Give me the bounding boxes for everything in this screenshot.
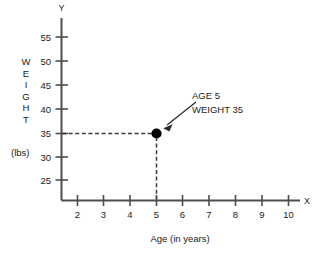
x-tick-label-2: 2: [75, 209, 80, 220]
y-tick-label-50: 50: [40, 56, 51, 67]
x-axis-letter: X: [304, 196, 310, 206]
y-tick-label-40: 40: [40, 104, 51, 115]
x-tick-label-5: 5: [154, 209, 159, 220]
x-tick-label-3: 3: [101, 209, 106, 220]
x-tick-label-6: 6: [180, 209, 185, 220]
chart-plot-area: 55 50 45 40 35 30 25 2 3 4 5 6 7 8 9 10 …: [0, 0, 323, 255]
x-tick-label-7: 7: [206, 209, 211, 220]
annotation-line-2: WEIGHT 35: [192, 104, 243, 115]
weight-vs-age-chart: 55 50 45 40 35 30 25 2 3 4 5 6 7 8 9 10 …: [0, 0, 323, 255]
y-axis-title-letter-g: G: [18, 91, 34, 103]
y-tick-label-45: 45: [40, 80, 51, 91]
x-tick-label-9: 9: [259, 209, 264, 220]
y-axis-title-letter-e: E: [18, 68, 34, 80]
y-axis-title-letter-i: I: [18, 79, 34, 91]
data-point-age5-weight35[interactable]: [151, 128, 161, 138]
x-tick-label-10: 10: [283, 209, 294, 220]
y-axis-title-letter-w: W: [18, 56, 34, 68]
y-axis-title-letter-h: H: [18, 102, 34, 114]
x-tick-label-4: 4: [127, 209, 132, 220]
y-tick-label-25: 25: [40, 175, 51, 186]
y-tick-label-55: 55: [40, 32, 51, 43]
y-axis-unit: (lbs): [11, 147, 29, 158]
y-axis-letter: Y: [58, 3, 64, 13]
x-axis-title: Age (in years): [150, 233, 209, 244]
x-tick-label-8: 8: [233, 209, 238, 220]
y-axis-title-letter-t: T: [18, 114, 34, 126]
y-tick-label-35: 35: [40, 128, 51, 139]
y-tick-label-30: 30: [40, 152, 51, 163]
y-axis-title: W E I G H T: [18, 56, 34, 126]
annotation-line-1: AGE 5: [192, 90, 220, 101]
